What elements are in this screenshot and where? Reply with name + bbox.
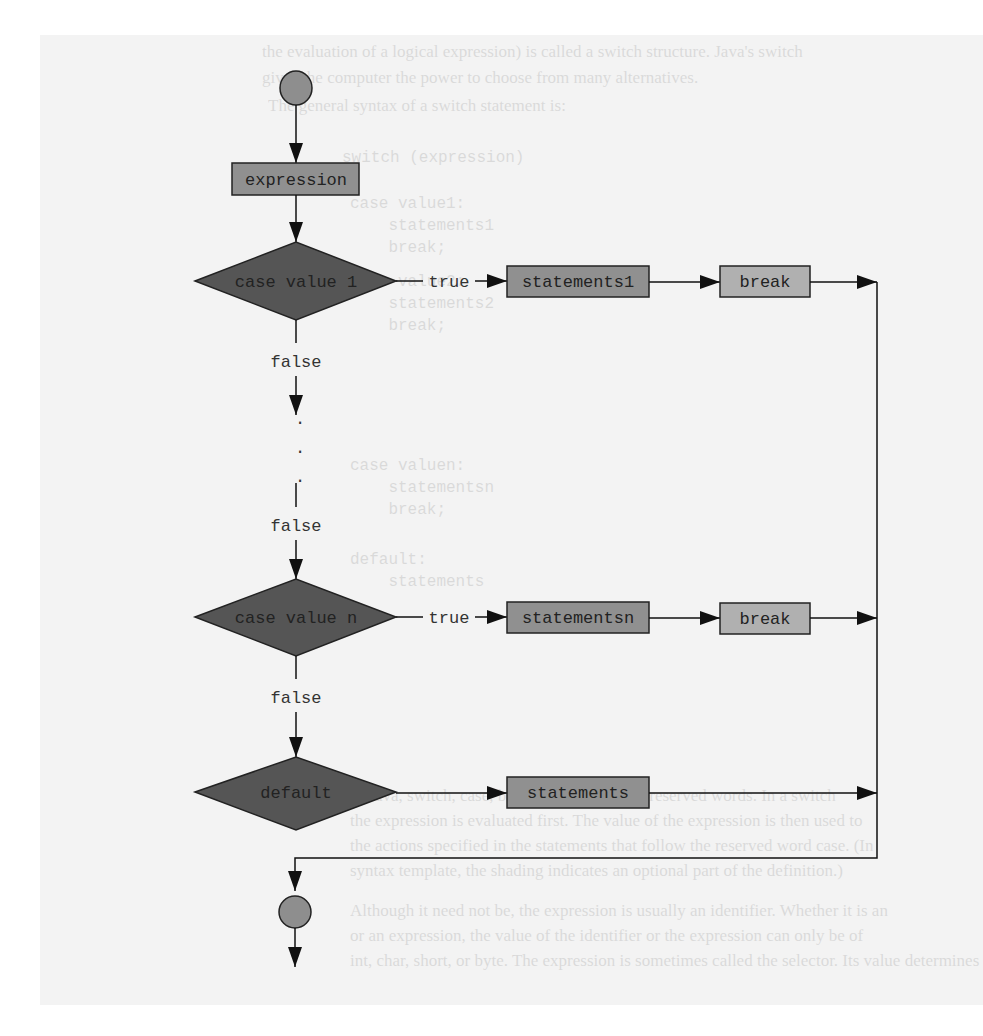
case1-true-label: true [429,273,470,292]
end-node [279,896,311,928]
statements1-label: statements1 [522,273,634,292]
expression-label: expression [245,171,347,190]
ellipsis-dot-1: . [295,410,305,429]
start-node [280,71,312,105]
casen-false-label: false [270,689,321,708]
switch-flowchart: expression case value 1 true statements1… [0,0,983,1036]
decision-case-value-n: case value n [195,579,396,656]
statementsn-label: statementsn [522,609,634,628]
case-value-n-label: case value n [235,609,357,628]
decision-case-value-1: case value 1 [195,242,396,320]
default-statements-node: statements [507,777,649,808]
decision-default: default [195,757,396,830]
casen-true-label: true [429,609,470,628]
statementsn-node: statementsn [507,602,649,633]
break1-node: break [720,266,810,297]
case1-false-label: false [270,353,321,372]
default-statements-label: statements [527,784,629,803]
case-value-1-label: case value 1 [235,273,357,292]
breakn-label: break [739,610,790,629]
default-label: default [260,784,331,803]
statements1-node: statements1 [507,266,649,297]
ellipsis-dot-2: . [295,439,305,458]
expression-node: expression [232,163,359,195]
middle-false-label: false [270,517,321,536]
break1-label: break [739,273,790,292]
breakn-node: break [720,603,810,634]
